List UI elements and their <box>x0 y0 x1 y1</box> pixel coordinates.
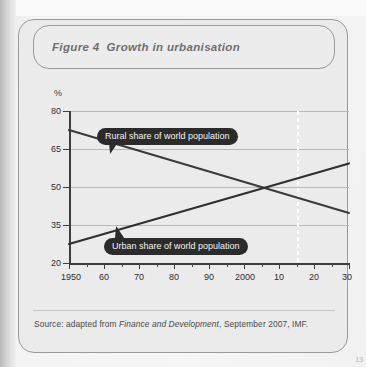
source-divider <box>33 310 335 311</box>
y-axis-unit-label: % <box>54 88 62 98</box>
figure-container: Figure 4Growth in urbanisation % 80 65 5 <box>18 19 348 353</box>
x-tick-1960 <box>104 264 105 269</box>
x-axis-label-2010: 10 <box>274 272 284 282</box>
x-tick-2020 <box>314 264 315 269</box>
source-publication-title: Finance and Development <box>119 319 219 329</box>
source-prefix-text: Source: adapted from <box>34 319 119 329</box>
figure-title-capsule: Figure 4Growth in urbanisation <box>33 25 335 69</box>
y-axis-label-50: 50 <box>43 183 61 192</box>
figure-title-text: Growth in urbanisation <box>107 41 241 53</box>
x-tick-2010 <box>279 264 280 269</box>
x-axis-label-1950: 1950 <box>61 272 81 282</box>
x-tick-minor-2025 <box>332 264 333 267</box>
x-tick-minor-2005 <box>262 264 263 267</box>
page-spine-shadow <box>0 0 16 367</box>
source-suffix-text: , September 2007, IMF. <box>219 319 308 329</box>
x-tick-minor-1985 <box>192 264 193 267</box>
x-tick-minor-1975 <box>157 264 158 267</box>
figure-number-label: Figure 4 <box>52 41 100 53</box>
x-tick-1990 <box>209 264 210 269</box>
annotation-urban-label[interactable]: Urban share of world population <box>104 238 248 255</box>
x-tick-minor-1995 <box>227 264 228 267</box>
x-axis-label-2020: 20 <box>309 272 319 282</box>
chart-plot-area: % 80 65 50 35 20 <box>51 91 351 301</box>
y-axis-label-65: 65 <box>43 145 61 154</box>
x-tick-1980 <box>174 264 175 269</box>
x-axis-label-1970: 70 <box>134 272 144 282</box>
y-axis-label-35: 35 <box>43 221 61 230</box>
x-axis-label-1960: 60 <box>99 272 109 282</box>
x-tick-2000 <box>244 264 245 269</box>
x-axis-label-1980: 80 <box>169 272 179 282</box>
x-axis-label-2000: 2000 <box>235 272 255 282</box>
series-line-urban <box>69 163 349 244</box>
x-tick-2030 <box>349 264 350 269</box>
x-tick-minor-1965 <box>122 264 123 267</box>
page-title: Figure 4Growth in urbanisation <box>52 41 240 53</box>
page-top-margin <box>16 0 366 16</box>
x-tick-1950 <box>69 264 70 269</box>
x-tick-minor-1955 <box>87 264 88 267</box>
x-axis-label-2030: 30 <box>342 272 352 282</box>
y-axis-label-20: 20 <box>43 259 61 268</box>
source-attribution: Source: adapted from Finance and Develop… <box>34 319 308 329</box>
x-tick-1970 <box>139 264 140 269</box>
y-axis-label-80: 80 <box>43 107 61 116</box>
x-tick-minor-2015 <box>297 264 298 267</box>
x-axis-label-1990: 90 <box>204 272 214 282</box>
page-number: 13 <box>355 356 363 363</box>
page-canvas: Figure 4Growth in urbanisation % 80 65 5 <box>0 0 366 367</box>
